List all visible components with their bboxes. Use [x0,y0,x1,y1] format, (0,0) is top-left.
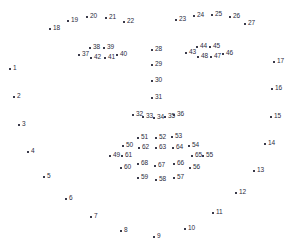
landmark-label: 39 [107,44,114,51]
landmark-label: 10 [188,225,195,232]
plus-marker [153,117,155,119]
landmark-label: 34 [157,114,164,121]
landmark-label: 12 [239,189,246,196]
plus-marker [155,137,157,139]
landmark-label: 66 [177,160,184,167]
landmark-label: 18 [53,25,60,32]
landmark-label: 57 [177,174,184,181]
plus-marker [197,56,199,58]
plus-marker [164,116,166,118]
plus-marker [153,236,155,238]
landmark-label: 61 [125,152,132,159]
landmark-label: 48 [201,53,208,60]
plus-marker [132,114,134,116]
plus-marker [151,49,153,51]
landmark-label: 27 [248,20,255,27]
landmark-label: 56 [193,164,200,171]
plus-marker [189,167,191,169]
plus-marker [121,155,123,157]
plus-marker [67,20,69,22]
landmark-label: 29 [155,61,162,68]
plus-marker [65,198,67,200]
plus-marker [13,96,15,98]
landmark-label: 40 [120,51,127,58]
plus-marker [154,165,156,167]
plus-marker [138,147,140,149]
landmark-label: 16 [275,85,282,92]
plus-marker [264,143,266,145]
plus-marker [137,137,139,139]
landmark-label: 26 [233,13,240,19]
plus-marker [116,54,118,56]
plus-marker [120,230,122,232]
plus-marker [244,23,246,25]
landmark-label: 37 [82,51,89,58]
landmark-label: 49 [113,152,120,159]
landmark-label: 50 [126,142,133,149]
landmark-label: 55 [206,152,213,159]
landmark-label: 59 [141,174,148,181]
landmark-label: 22 [127,18,134,25]
landmark-label: 1 [13,65,17,72]
landmark-label: 46 [226,50,233,57]
landmark-label: 28 [155,46,162,53]
plus-marker [229,16,231,18]
plus-marker [188,145,190,147]
landmark-label: 44 [200,43,207,50]
plus-marker [211,14,213,16]
plus-marker [193,15,195,17]
plus-marker [173,177,175,179]
landmark-label: 53 [175,133,182,140]
landmark-label: 30 [155,77,162,84]
landmark-label: 36 [177,111,184,118]
landmark-label: 3 [22,121,26,128]
landmark-label: 63 [159,144,166,151]
landmark-label: 68 [141,160,148,167]
landmark-label: 9 [157,233,161,240]
plus-marker [18,124,20,126]
plus-marker [105,17,107,19]
plus-marker [155,147,157,149]
landmark-label: 15 [274,113,281,120]
plus-marker [212,212,214,214]
landmark-label: 64 [176,144,183,151]
plus-marker [90,216,92,218]
plus-marker [184,228,186,230]
plus-marker [191,155,193,157]
plus-marker [151,80,153,82]
plus-marker [222,53,224,55]
landmark-label: 47 [214,53,221,60]
plus-marker [202,155,204,157]
plus-marker [235,192,237,194]
landmark-label: 25 [215,11,222,17]
plus-marker [103,47,105,49]
landmark-label: 67 [158,162,165,169]
plus-marker [78,54,80,56]
plus-marker [43,176,45,178]
landmark-label: 19 [71,17,78,24]
landmark-label: 20 [90,13,97,19]
landmark-label: 4 [31,148,35,155]
landmark-label: 8 [124,227,128,234]
plus-marker [104,57,106,59]
landmark-label: 6 [69,195,73,202]
plus-marker [137,163,139,165]
landmark-label: 54 [192,142,199,149]
plus-marker [151,64,153,66]
plus-marker [49,28,51,30]
plus-marker [175,19,177,21]
plus-marker [155,179,157,181]
plus-marker [185,52,187,54]
landmark-label: 23 [179,16,186,23]
plus-marker [196,46,198,48]
plus-marker [172,147,174,149]
landmark-label: 31 [155,94,162,101]
landmark-label: 58 [159,176,166,183]
landmark-label: 7 [94,213,98,220]
landmark-label: 17 [277,58,284,65]
plus-marker [270,116,272,118]
landmark-label: 51 [141,134,148,141]
plus-marker [271,88,273,90]
plus-marker [209,46,211,48]
landmark-label: 52 [159,134,166,141]
